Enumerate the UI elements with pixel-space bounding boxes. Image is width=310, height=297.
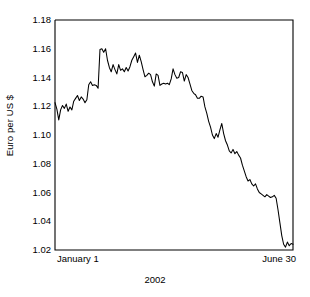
y-tick-label-1-06: 1.06 bbox=[5, 188, 51, 198]
x-axis-end-label: June 30 bbox=[262, 253, 296, 264]
data-series-group bbox=[55, 49, 293, 247]
y-tick-label-1-12: 1.12 bbox=[5, 101, 51, 111]
y-tick-label-1-18: 1.18 bbox=[5, 15, 51, 25]
y-tick-label-1-16: 1.16 bbox=[5, 44, 51, 54]
y-tick-label-1-02: 1.02 bbox=[5, 245, 51, 255]
x-axis-title: 2002 bbox=[0, 274, 310, 285]
axis-frame bbox=[55, 20, 293, 250]
y-axis-tick-labels: 1.181.161.141.121.101.081.061.041.02 bbox=[0, 0, 51, 297]
euro-per-usd-line-chart: Euro per US $ 1.181.161.141.121.101.081.… bbox=[0, 0, 310, 297]
y-tick-label-1-14: 1.14 bbox=[5, 73, 51, 83]
y-tick-label-1-08: 1.08 bbox=[5, 159, 51, 169]
x-axis-start-label: January 1 bbox=[57, 253, 99, 264]
series-line-euro-per-usd bbox=[55, 49, 293, 247]
y-tick-label-1-10: 1.10 bbox=[5, 130, 51, 140]
plot-frame-box bbox=[55, 20, 293, 250]
y-tick-label-1-04: 1.04 bbox=[5, 216, 51, 226]
